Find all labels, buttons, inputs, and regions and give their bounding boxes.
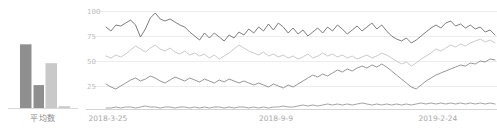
y-axis-ticks: 100755025 <box>87 8 100 91</box>
x-axis-ticks: 2018-3-252018-9-92019-2-24 <box>89 114 458 123</box>
y-tick-label: 50 <box>87 58 96 66</box>
y-tick-label: 25 <box>87 83 96 91</box>
bar-3 <box>46 63 58 108</box>
line-chart-panel: 100755025 2018-3-252018-9-92019-2-24 <box>86 0 497 133</box>
line-chart-svg: 100755025 2018-3-252018-9-92019-2-24 <box>86 0 497 133</box>
x-tick-label: 2018-9-9 <box>259 114 293 123</box>
chart-screenshot: 平均数 100755025 2018-3-252018-9-92019-2-24 <box>0 0 497 133</box>
line-series1 <box>106 13 495 43</box>
bar-series <box>20 44 70 108</box>
line-series4 <box>106 103 495 108</box>
bar-1 <box>20 44 32 108</box>
x-tick-label: 2018-3-25 <box>89 114 128 123</box>
bar-chart-panel: 平均数 <box>0 0 86 133</box>
y-tick-label: 100 <box>87 8 100 16</box>
x-tick-label: 2019-2-24 <box>419 114 458 123</box>
bar-category-label: 平均数 <box>0 112 86 123</box>
line-series3 <box>106 59 495 89</box>
line-series <box>106 13 495 108</box>
bar-2 <box>34 85 45 108</box>
y-tick-label: 75 <box>87 33 96 41</box>
